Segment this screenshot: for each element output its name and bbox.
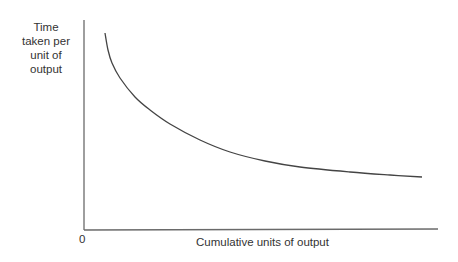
origin-label: 0 xyxy=(79,233,85,245)
learning-curve-line xyxy=(105,33,422,177)
chart-plot xyxy=(0,0,458,262)
x-axis xyxy=(84,229,438,230)
x-axis-label: Cumulative units of output xyxy=(196,236,329,248)
